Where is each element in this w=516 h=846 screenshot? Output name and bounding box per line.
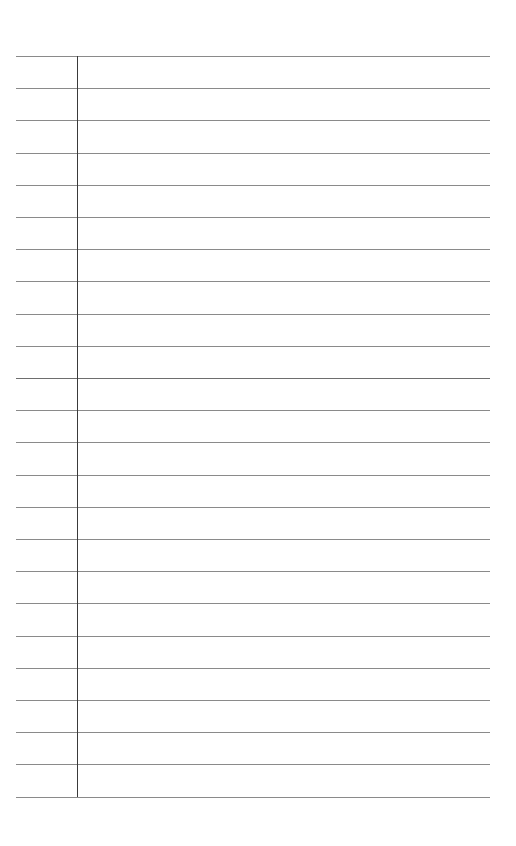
ruled-line: [16, 732, 490, 733]
ruled-line: [16, 56, 490, 57]
ruled-line: [16, 281, 490, 282]
ruled-line: [16, 185, 490, 186]
ruled-line: [16, 700, 490, 701]
ruled-line: [16, 797, 490, 798]
ruled-line: [16, 153, 490, 154]
lined-paper-page: [0, 0, 516, 846]
ruled-line: [16, 378, 490, 379]
margin-line: [77, 56, 78, 797]
ruled-line: [16, 314, 490, 315]
ruled-line: [16, 475, 490, 476]
ruled-line: [16, 88, 490, 89]
ruled-line: [16, 120, 490, 121]
ruled-line: [16, 668, 490, 669]
ruled-line: [16, 346, 490, 347]
ruled-line: [16, 636, 490, 637]
ruled-line: [16, 410, 490, 411]
ruled-line: [16, 764, 490, 765]
ruled-line: [16, 603, 490, 604]
ruled-line: [16, 571, 490, 572]
ruled-line: [16, 217, 490, 218]
ruled-line: [16, 249, 490, 250]
ruled-line: [16, 442, 490, 443]
ruled-line: [16, 507, 490, 508]
ruled-line: [16, 539, 490, 540]
